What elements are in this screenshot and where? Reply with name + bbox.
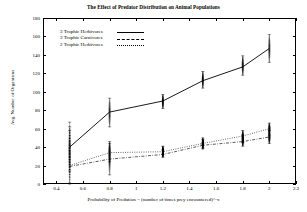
y-tick-mark	[43, 36, 46, 37]
chart-legend: 3 Trophic Herbivores3 Trophic Carnivores…	[60, 29, 144, 48]
x-tick-label: 1.8	[233, 186, 253, 192]
x-tick-label: 0.8	[100, 186, 120, 192]
x-tick-mark	[296, 181, 297, 184]
y-tick-mark	[293, 147, 296, 148]
y-tick-mark	[293, 184, 296, 185]
y-tick-mark	[293, 129, 296, 130]
y-tick-label: 0	[24, 182, 40, 187]
x-axis-title: Probability of Predation = (number of ti…	[0, 196, 307, 203]
legend-item[interactable]: 2 Trophic Herbivores	[60, 42, 144, 48]
x-tick-mark	[56, 18, 57, 21]
y-tick-mark	[293, 92, 296, 93]
x-tick-mark	[269, 18, 270, 21]
y-tick-label: 60	[24, 126, 40, 131]
y-tick-label: 100	[24, 89, 40, 94]
y-tick-mark	[43, 73, 46, 74]
legend-item-label: 2 Trophic Herbivores	[60, 42, 117, 48]
x-tick-mark	[189, 181, 190, 184]
x-tick-mark	[163, 181, 164, 184]
y-tick-mark	[43, 184, 46, 185]
chart-container: The Effect of Predator Distribution on A…	[0, 0, 307, 212]
y-tick-label: 20	[24, 163, 40, 168]
y-tick-mark	[43, 18, 46, 19]
y-tick-label: 120	[24, 71, 40, 76]
y-tick-mark	[43, 55, 46, 56]
x-tick-mark	[243, 181, 244, 184]
y-tick-mark	[43, 129, 46, 130]
x-tick-mark	[189, 18, 190, 21]
y-tick-label: 40	[24, 145, 40, 150]
y-tick-label: 180	[24, 16, 40, 21]
x-tick-label: 1.4	[179, 186, 199, 192]
x-tick-label: 0.4	[46, 186, 66, 192]
y-tick-label: 160	[24, 34, 40, 39]
y-tick-mark	[43, 166, 46, 167]
x-tick-label: 1	[126, 186, 146, 192]
x-tick-label: 0.6	[73, 186, 93, 192]
x-tick-mark	[136, 181, 137, 184]
x-tick-mark	[216, 181, 217, 184]
chart-title: The Effect of Predator Distribution on A…	[0, 4, 307, 11]
y-tick-mark	[293, 36, 296, 37]
y-tick-label: 80	[24, 108, 40, 113]
x-tick-mark	[56, 181, 57, 184]
y-tick-mark	[43, 110, 46, 111]
y-tick-mark	[43, 92, 46, 93]
x-tick-label: 1.2	[153, 186, 173, 192]
x-tick-mark	[83, 181, 84, 184]
x-tick-mark	[269, 181, 270, 184]
y-tick-mark	[293, 166, 296, 167]
y-tick-mark	[293, 73, 296, 74]
y-tick-mark	[43, 147, 46, 148]
x-tick-mark	[110, 181, 111, 184]
y-tick-label: 140	[24, 52, 40, 57]
x-tick-mark	[296, 18, 297, 21]
x-tick-label: 2	[259, 186, 279, 192]
y-tick-mark	[293, 110, 296, 111]
x-tick-mark	[216, 18, 217, 21]
x-tick-mark	[243, 18, 244, 21]
x-tick-label: 1.6	[206, 186, 226, 192]
x-tick-mark	[83, 18, 84, 21]
x-tick-mark	[136, 18, 137, 21]
y-tick-mark	[293, 55, 296, 56]
x-tick-mark	[163, 18, 164, 21]
y-axis-title: Avg. Number of Organisms	[10, 38, 15, 158]
x-tick-mark	[110, 18, 111, 21]
x-tick-label: 2.2	[286, 186, 306, 192]
